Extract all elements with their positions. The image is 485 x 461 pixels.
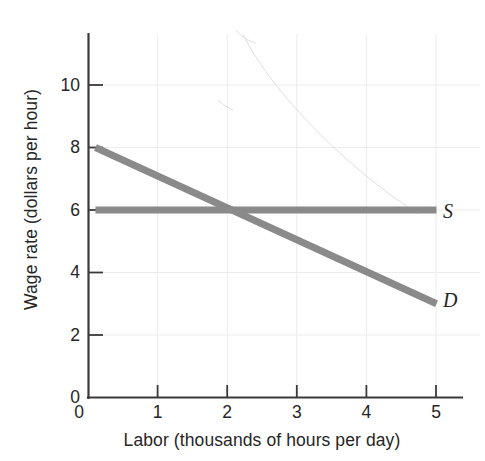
x-tick-label-5: 5 xyxy=(431,402,441,422)
x-tick-label-wrap-3: 3 xyxy=(277,404,317,422)
scan-artifact xyxy=(218,30,418,214)
y-tick-label-wrap-2: 2 xyxy=(48,327,80,328)
x-tick-label-wrap-2: 2 xyxy=(207,404,247,422)
x-tick-label-4: 4 xyxy=(362,402,372,422)
y-tick-label-2: 2 xyxy=(50,327,80,345)
y-tick-label-wrap-6: 6 xyxy=(48,202,80,203)
x-tick-label-0: 0 xyxy=(74,402,84,422)
x-tick-label-3: 3 xyxy=(292,402,302,422)
y-tick-label-wrap-8: 8 xyxy=(48,139,80,140)
y-tick-label-wrap-0: 0 xyxy=(48,389,80,390)
grid-lines xyxy=(89,34,480,397)
y-tick-label-wrap-4: 4 xyxy=(48,264,80,265)
chart-figure: 10 8 6 4 2 0 0 1 2 3 4 5 Wage rate (doll… xyxy=(0,0,485,461)
x-tick-label-wrap-5: 5 xyxy=(416,404,456,422)
x-tick-label-wrap-4: 4 xyxy=(346,404,386,422)
y-tick-label-8: 8 xyxy=(50,139,80,157)
x-tick-label-wrap-1: 1 xyxy=(138,404,178,422)
x-tick-marks xyxy=(158,385,436,398)
y-tick-label-wrap-10: 10 xyxy=(48,77,80,78)
chart-axes xyxy=(88,34,462,398)
x-tick-label-1: 1 xyxy=(153,402,163,422)
x-tick-label-2: 2 xyxy=(222,402,232,422)
demand-curve-line xyxy=(95,148,436,304)
demand-curve-label: D xyxy=(443,290,457,310)
x-tick-label-wrap-0: 0 xyxy=(59,404,99,422)
y-tick-label-10: 10 xyxy=(50,77,80,95)
y-axis-title: Wage rate (dollars per hour) xyxy=(21,40,42,360)
y-tick-label-4: 4 xyxy=(50,264,80,282)
supply-curve-label: S xyxy=(443,201,453,221)
x-axis-title: Labor (thousands of hours per day) xyxy=(88,430,436,451)
y-tick-label-6: 6 xyxy=(50,202,80,220)
